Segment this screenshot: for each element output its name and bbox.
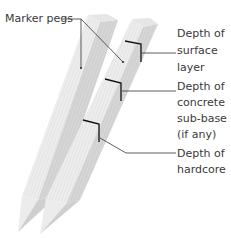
subbase-label-line4: (if any) — [177, 127, 216, 143]
hardcore-label-line1: Depth of — [177, 146, 225, 162]
subbase-label-line3: sub-base — [177, 111, 227, 127]
marker-pegs-label: Marker pegs — [5, 11, 73, 27]
surface-label-line2: surface — [177, 43, 218, 59]
hardcore-label-line2: hardcore — [177, 162, 226, 178]
subbase-label-line1: Depth of — [177, 79, 225, 95]
subbase-label-line2: concrete — [177, 95, 225, 111]
surface-label-line3: layer — [177, 60, 205, 76]
hardcore-leader — [100, 138, 176, 153]
surface-label-line1: Depth of — [177, 26, 225, 42]
